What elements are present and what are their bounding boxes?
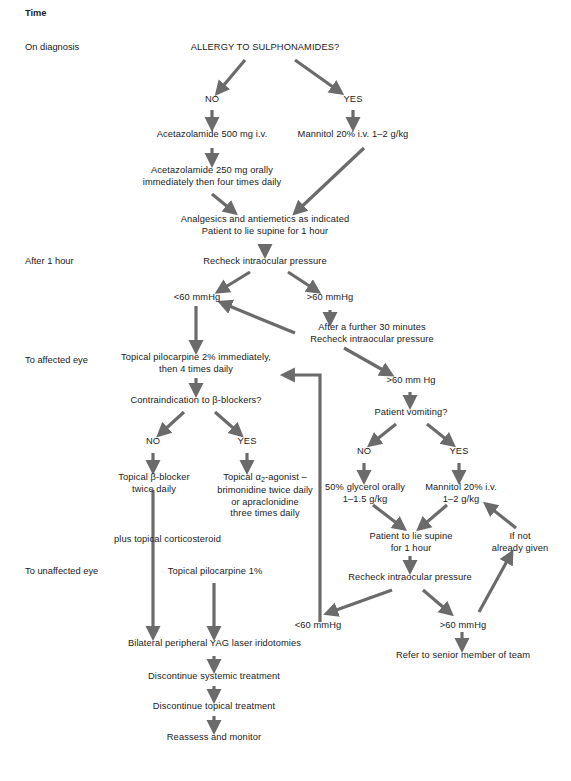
node-plus-corticosteroid: plus topical corticosteroid [95,534,240,546]
time-label-after-1-hour: After 1 hour [25,256,74,268]
time-label-to-unaffected-eye: To unaffected eye [25,566,98,578]
edge-vomiting-to-yes3 [427,424,452,444]
edge-glycerol-to-supine [373,505,403,528]
analgesics-line2: Patient to lie supine for 1 hour [202,226,329,236]
glycerol-line1: 50% glycerol orally [325,482,405,492]
time-label-to-affected-eye: To affected eye [25,355,88,367]
node-pilocarpine-2pc: Topical pilocarpine 2% immediately,then … [107,352,285,375]
ifnot-line2: already given [492,543,549,553]
node-branch-yes-3: YES [439,446,479,458]
node-yag-iridotomies: Bilateral peripheral YAG laser iridotomi… [108,638,321,650]
edge-oral-to-analgesics [212,194,234,212]
node-recheck-iop-1: Recheck intraocular pressure [185,256,345,268]
edge-contraindication-to-yes2 [215,412,240,434]
node-analgesics: Analgesics and antiemetics as indicatedP… [155,214,375,237]
node-mannitol-2: Mannitol 20% i.v.1–2 g/kg [413,482,509,505]
bblocker-prefix: Topical [118,472,150,482]
node-over60-1: >60 mmHg [295,292,365,304]
edge-allergy-to-yes [295,60,340,92]
supine-line1: Patient to lie supine [369,531,452,541]
edge-allergy-to-no [218,60,245,92]
node-refer-senior: Refer to senior member of team [382,650,544,662]
acetazolamide-oral-line2: immediately then four times daily [143,177,281,187]
glycerol-line2: 1–1.5 g/kg [343,494,387,504]
node-branch-no-2: NO [133,436,173,448]
edge-further30-to-under60 [222,303,295,333]
node-branch-no-3: NO [344,446,384,458]
bblocker-suffix: -blocker [156,472,190,482]
node-over60-3: >60 mmHg [428,620,498,632]
bblocker-line2: twice daily [132,484,176,494]
acetazolamide-oral-line1: Acetazolamide 250 mg orally [151,165,273,175]
node-further-30-minutes: After a further 30 minutesRecheck intrao… [287,322,457,345]
node-branch-yes-2: YES [227,436,267,448]
node-mannitol-top: Mannitol 20% i.v. 1–2 g/kg [273,129,433,141]
edge-ifnot-to-mannitol2 [487,505,516,528]
flowchart-arrows [0,0,571,781]
mannitol2-line1: Mannitol 20% i.v. [425,482,497,492]
time-label-on-diagnosis: On diagnosis [25,42,79,54]
node-reassess-monitor: Reassess and monitor [160,732,268,744]
node-branch-no-1: NO [192,94,232,106]
time-column-header: Time [25,8,47,20]
supine-line2: for 1 hour [391,543,432,553]
ifnot-line1: If not [509,531,530,541]
contraindication-suffix: -blockers? [218,395,262,405]
node-contraindication-question: Contraindication to β-blockers? [113,395,279,407]
edge-further30-to-over60-2 [344,348,390,374]
further30-line2: Recheck intraocular pressure [310,334,434,344]
node-recheck-iop-2: Recheck intraocular pressure [330,572,490,584]
edge-vomiting-to-no3 [371,424,396,444]
node-glycerol: 50% glycerol orally1–1.5 g/kg [310,482,420,505]
edge-recheck2-to-under60-2 [328,590,392,613]
mannitol2-line2: 1–2 g/kg [443,494,479,504]
node-branch-yes-1: YES [333,94,373,106]
alpha-suffix: -agonist – [265,472,307,482]
node-patient-vomiting: Patient vomiting? [360,407,462,419]
contraindication-prefix: Contraindication to [130,395,212,405]
node-over60-2: >60 mm Hg [375,375,447,387]
alpha-line3: or apraclonidine [231,497,299,507]
node-discontinue-topical: Discontinue topical treatment [137,701,291,713]
node-if-not-already-given: If notalready given [477,531,563,554]
pilocarpine2-line2: then 4 times daily [159,364,233,374]
edge-contraindication-to-no2 [160,412,184,434]
alpha-prefix: Topical [223,472,255,482]
node-pilocarpine-1pc: Topical pilocarpine 1% [155,566,275,578]
alpha-line2: brimonidine twice daily [217,485,313,495]
node-topical-bblocker: Topical β-blockertwice daily [98,472,210,495]
node-acetazolamide-oral: Acetazolamide 250 mg orallyimmediately t… [112,165,312,188]
node-patient-supine: Patient to lie supinefor 1 hour [353,531,469,554]
pilocarpine2-line1: Topical pilocarpine 2% immediately, [121,352,271,362]
edge-recheck1-to-over60 [288,272,317,291]
further30-line1: After a further 30 minutes [318,322,425,332]
edge-recheck1-to-under60 [219,272,250,291]
node-allergy-question: ALLERGY TO SULPHONAMIDES? [170,42,360,54]
alpha-line4: three times daily [230,508,299,518]
edge-recheck2-to-over60-3 [423,590,450,613]
node-discontinue-systemic: Discontinue systemic treatment [133,671,295,683]
node-under60-1: <60 mmHg [162,292,232,304]
node-under60-2: <60 mmHg [283,620,353,632]
analgesics-line1: Analgesics and antiemetics as indicated [181,214,349,224]
edge-mannitol2-to-supine [420,505,447,528]
flowchart-canvas: Time On diagnosis After 1 hour To affect… [0,0,571,781]
node-acetazolamide-iv: Acetazolamide 500 mg i.v. [137,129,287,141]
